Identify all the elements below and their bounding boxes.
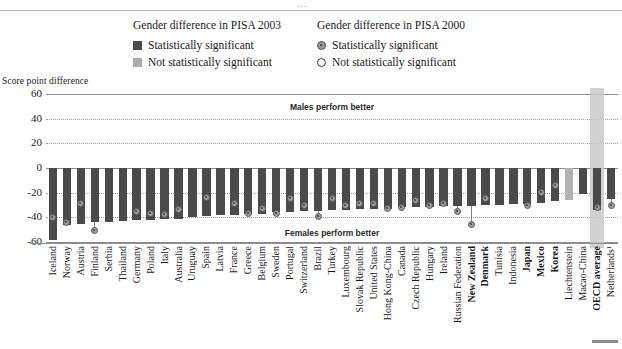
x-tick-label-iceland: Iceland (48, 246, 58, 275)
marker-2000-russian-federation[interactable] (454, 208, 461, 215)
filled-circle-marker-icon (317, 41, 326, 50)
x-tick-label-canada: Canada (397, 246, 407, 276)
bar-thailand[interactable] (119, 168, 127, 221)
legend-item-2003-not-significant: Not statistically significant (133, 55, 281, 70)
bar-brazil[interactable] (314, 168, 322, 211)
bar-latvia[interactable] (216, 168, 224, 215)
marker-2000-spain[interactable] (203, 194, 210, 201)
x-tick-label-poland: Poland (146, 246, 156, 274)
bar-spain[interactable] (202, 168, 210, 216)
bar-serbia[interactable] (105, 168, 113, 222)
y-tick-label-60: 60 (16, 88, 42, 99)
marker-2000-luxembourg[interactable] (342, 202, 349, 209)
marker-2000-netherlands-[interactable] (608, 202, 615, 209)
x-tick-label-hungary: Hungary (425, 246, 435, 281)
page-top-glyph: … (292, 0, 312, 10)
bar-russian-federation[interactable] (453, 168, 461, 206)
bar-norway[interactable] (63, 168, 71, 225)
x-tick-label-sweden: Sweden (271, 246, 281, 278)
x-tick-label-france: France (229, 246, 239, 273)
marker-2000-germany[interactable] (133, 208, 140, 215)
bar-turkey[interactable] (328, 168, 336, 210)
annotation-females-perform-better: Females perform better (285, 228, 379, 238)
x-tick-label-turkey: Turkey (327, 246, 337, 275)
x-tick-label-uruguay: Uruguay (187, 246, 197, 281)
marker-2000-canada[interactable] (398, 204, 405, 211)
bar-new-zealand[interactable] (467, 168, 475, 206)
bar-portugal[interactable] (286, 168, 294, 212)
x-tick-label-united-states: United States (369, 246, 379, 300)
x-tick-label-czech-republic: Czech Republic (411, 246, 421, 310)
bar-japan[interactable] (523, 168, 531, 204)
x-tick-label-greece: Greece (243, 246, 253, 274)
legend-label-2000-significant: Statistically significant (332, 39, 438, 52)
marker-2000-greece[interactable] (245, 210, 252, 217)
legend-item-2000-not-significant: Not statistically significant (317, 55, 465, 70)
x-tick-label-netherlands-: Netherlands¹ (606, 246, 616, 297)
bar-uruguay[interactable] (188, 168, 196, 217)
x-tick-label-finland: Finland (90, 246, 100, 277)
marker-2000-japan[interactable] (524, 202, 531, 209)
bar-iceland[interactable] (49, 168, 57, 240)
bar-austria[interactable] (77, 168, 85, 224)
bar-hong-kong-china[interactable] (384, 168, 392, 209)
marker-2000-belgium[interactable] (259, 205, 266, 212)
x-tick-label-belgium: Belgium (257, 246, 267, 280)
legend-label-2003-significant: Statistically significant (148, 39, 254, 52)
bar-canada[interactable] (398, 168, 406, 207)
x-tick-label-japan: Japan (522, 246, 532, 272)
marker-2000-hong-kong-china[interactable] (384, 205, 391, 212)
bar-sweden[interactable] (272, 168, 280, 212)
marker-2000-korea[interactable] (552, 182, 559, 189)
marker-2000-portugal[interactable] (287, 195, 294, 202)
x-tick-label-new-zealand: New Zealand (467, 246, 477, 302)
bar-mexico[interactable] (537, 168, 545, 203)
bar-liechtenstein[interactable] (565, 168, 573, 200)
y-tick-label-20: 20 (16, 137, 42, 148)
open-circle-marker-icon (317, 58, 326, 67)
dark-square-swatch-icon (133, 41, 142, 50)
legend-column-pisa-2000: Gender difference in PISA 2000 Statistic… (317, 19, 465, 72)
x-tick-label-latvia: Latvia (215, 246, 225, 272)
bars-layer (46, 94, 618, 242)
legend-item-2003-significant: Statistically significant (133, 38, 281, 53)
marker-2000-czech-republic[interactable] (412, 197, 419, 204)
bar-macao-china[interactable] (579, 168, 587, 194)
x-tick-label-brazil: Brazil (313, 246, 323, 270)
y-tick-label-0: 0 (16, 162, 42, 173)
page-bottom-mark (592, 340, 618, 343)
x-tick-label-ireland: Ireland (439, 246, 449, 274)
bar-greece[interactable] (244, 168, 252, 214)
marker-2000-sweden[interactable] (273, 210, 280, 217)
x-tick-label-portugal: Portugal (285, 246, 295, 280)
marker-2000-mexico[interactable] (538, 189, 545, 196)
y-axis-title: Score point difference (2, 76, 88, 87)
y-tick-label--60: -60 (16, 236, 42, 247)
x-tick-label-denmark: Denmark (480, 246, 490, 287)
bar-indonesia[interactable] (509, 168, 517, 204)
marker-2000-brazil[interactable] (315, 213, 322, 220)
bar-finland[interactable] (91, 168, 99, 222)
marker-2000-hungary[interactable] (426, 202, 433, 209)
x-tick-label-mexico: Mexico (536, 246, 546, 277)
marker-2000-finland[interactable] (91, 227, 98, 234)
plot-bottom-rule (30, 243, 618, 244)
marker-2000-oecd-average[interactable] (594, 204, 601, 211)
marker-2000-turkey[interactable] (329, 195, 336, 202)
marker-2000-switzerland[interactable] (301, 202, 308, 209)
x-tick-label-germany: Germany (132, 246, 142, 283)
bar-france[interactable] (230, 168, 238, 215)
marker-2000-new-zealand[interactable] (468, 221, 475, 228)
x-tick-label-macao-china: Macao-China (578, 246, 588, 300)
light-square-swatch-icon (133, 58, 142, 67)
legend-item-2000-significant: Statistically significant (317, 38, 465, 53)
x-tick-label-slovak-republic: Slovak Republic (355, 246, 365, 312)
bar-tunisia[interactable] (495, 168, 503, 205)
x-tick-label-austria: Austria (76, 246, 86, 275)
x-tick-label-russian-federation: Russian Federation (453, 246, 463, 323)
y-tick-label-40: 40 (16, 113, 42, 124)
legend-title-pisa-2000: Gender difference in PISA 2000 (317, 19, 465, 32)
x-tick-label-luxembourg: Luxembourg (341, 246, 351, 297)
bar-netherlands-[interactable] (607, 168, 615, 199)
x-tick-label-norway: Norway (62, 246, 72, 278)
